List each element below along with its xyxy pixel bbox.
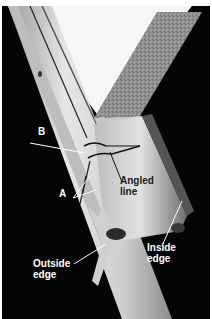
label-outside-edge: Outside edge bbox=[33, 258, 70, 280]
label-angled-line: Angled line bbox=[120, 175, 154, 197]
label-a: A bbox=[59, 188, 66, 199]
label-inside-edge: Inside edge bbox=[147, 242, 176, 264]
label-b: B bbox=[38, 126, 45, 137]
figure-frame: B A Angled line Outside edge Inside edge bbox=[0, 0, 212, 319]
